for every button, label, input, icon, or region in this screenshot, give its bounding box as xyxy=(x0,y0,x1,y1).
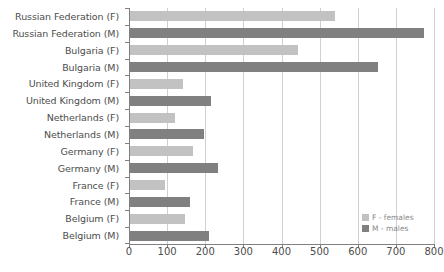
x-axis-tick-label: 300 xyxy=(234,246,253,257)
bar-m xyxy=(130,129,204,139)
legend-label: M - males xyxy=(372,224,408,233)
bar-m xyxy=(130,62,378,72)
y-axis-label: Belgium (M) xyxy=(0,227,124,244)
legend-swatch-icon xyxy=(362,225,369,232)
legend-label: F - females xyxy=(372,213,414,222)
bar-row xyxy=(130,126,434,143)
bar-m xyxy=(130,231,209,241)
bar-row xyxy=(130,177,434,194)
y-axis-label: Netherlands (M) xyxy=(0,126,124,143)
bar-f xyxy=(130,11,335,21)
x-axis-tick-labels: 0100200300400500600700800 xyxy=(129,246,435,262)
bar-row xyxy=(130,109,434,126)
y-axis-label: Russian Federation (M) xyxy=(0,25,124,42)
y-axis-tick xyxy=(125,75,129,92)
bar-f xyxy=(130,79,183,89)
plot-area xyxy=(129,8,434,244)
bar-row xyxy=(130,59,434,76)
y-axis-tick xyxy=(125,210,129,227)
bar-m xyxy=(130,197,190,207)
bar-series-group xyxy=(130,8,434,244)
y-axis-label: Russian Federation (F) xyxy=(0,8,124,25)
x-axis-tick-label: 800 xyxy=(424,246,443,257)
y-axis-tick xyxy=(125,143,129,160)
y-axis-tick xyxy=(125,160,129,177)
x-axis-tick-label: 700 xyxy=(386,246,405,257)
x-axis-tick-label: 500 xyxy=(310,246,329,257)
y-axis-tick xyxy=(125,59,129,76)
y-axis-label: Bulgaria (F) xyxy=(0,42,124,59)
x-axis-tick-label: 0 xyxy=(126,246,132,257)
bar-row xyxy=(130,143,434,160)
legend-item-m: M - males xyxy=(362,224,414,233)
x-axis-tick-label: 100 xyxy=(158,246,177,257)
y-axis-tick xyxy=(125,42,129,59)
bar-f xyxy=(130,113,175,123)
y-axis-ticks xyxy=(125,8,129,244)
bar-m xyxy=(130,163,218,173)
x-axis-tick-label: 200 xyxy=(196,246,215,257)
bar-row xyxy=(130,75,434,92)
y-axis-tick xyxy=(125,25,129,42)
legend-item-f: F - females xyxy=(362,213,414,222)
bar-f xyxy=(130,45,298,55)
bar-row xyxy=(130,193,434,210)
bar-f xyxy=(130,146,193,156)
legend-swatch-icon xyxy=(362,214,369,221)
y-axis-label: Netherlands (F) xyxy=(0,109,124,126)
x-axis-tick-label: 400 xyxy=(272,246,291,257)
y-axis-label: United Kingdom (M) xyxy=(0,92,124,109)
bar-row xyxy=(130,160,434,177)
y-axis-tick xyxy=(125,126,129,143)
y-axis-label: Belgium (F) xyxy=(0,210,124,227)
bar-f xyxy=(130,214,185,224)
y-axis-label: Germany (F) xyxy=(0,143,124,160)
bar-row xyxy=(130,92,434,109)
y-axis-label: Bulgaria (M) xyxy=(0,59,124,76)
y-axis-tick xyxy=(125,109,129,126)
y-axis-label: France (M) xyxy=(0,193,124,210)
x-axis-tick-label: 600 xyxy=(348,246,367,257)
bar-row xyxy=(130,8,434,25)
y-axis-tick xyxy=(125,193,129,210)
y-axis-label: Germany (M) xyxy=(0,160,124,177)
y-axis-label: United Kingdom (F) xyxy=(0,75,124,92)
bar-m xyxy=(130,28,424,38)
y-axis-tick xyxy=(125,92,129,109)
y-axis-tick xyxy=(125,227,129,244)
gridline xyxy=(434,8,435,244)
bar-row xyxy=(130,25,434,42)
bar-m xyxy=(130,96,211,106)
y-axis-tick xyxy=(125,177,129,194)
bar-row xyxy=(130,42,434,59)
y-axis-tick xyxy=(125,8,129,25)
chart-legend: F - femalesM - males xyxy=(362,213,414,233)
y-axis-label: France (F) xyxy=(0,177,124,194)
bar-f xyxy=(130,180,165,190)
y-axis-category-labels: Russian Federation (F)Russian Federation… xyxy=(0,8,124,244)
